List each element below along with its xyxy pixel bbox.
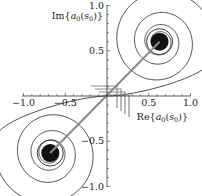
x-tick-label: −1.0 [12,97,35,108]
y-axis-label: Im{a0(s0)} [52,10,103,23]
y-tick-label: −1.0 [81,181,104,192]
x-axis-label: Re{a0(s0)} [137,111,188,124]
x-tick-label: 0.5 [141,97,156,108]
x-tick-label: −0.5 [54,97,77,108]
staircase-segments [91,86,129,117]
y-tick-label: 0.5 [89,45,104,56]
y-tick-label: −0.5 [81,135,104,146]
y-tick-label: 1.0 [89,0,104,11]
chart: −1.0−0.50.51.0 1.00.5−0.5−1.0 Re{a0(s0)}… [0,0,202,196]
x-tick-label: 1.0 [183,97,198,108]
